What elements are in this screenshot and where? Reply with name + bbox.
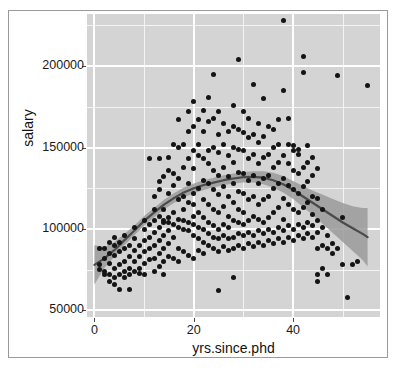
figure-root: 50000100000150000200000 02040 salary yrs… [0, 0, 396, 371]
data-point [276, 225, 281, 230]
data-point [166, 191, 171, 196]
data-point [251, 233, 256, 238]
data-point [281, 228, 286, 233]
data-point [201, 129, 206, 134]
data-point [226, 194, 231, 199]
data-point [301, 205, 306, 210]
data-point [281, 176, 286, 181]
data-point [281, 196, 286, 201]
data-point [266, 194, 271, 199]
data-point [201, 251, 206, 256]
data-point [142, 261, 147, 266]
data-point [181, 207, 186, 212]
data-point [301, 184, 306, 189]
data-point [276, 236, 281, 241]
data-point [216, 192, 221, 197]
data-point [266, 173, 271, 178]
data-point [355, 259, 360, 264]
data-point [166, 241, 171, 246]
data-point [315, 218, 320, 223]
data-point [171, 171, 176, 176]
data-point [340, 262, 345, 267]
data-point [201, 156, 206, 161]
data-point [296, 171, 301, 176]
data-point [241, 210, 246, 215]
data-point [161, 233, 166, 238]
data-point [196, 142, 201, 147]
data-point [176, 176, 181, 181]
data-point [221, 121, 226, 126]
data-point [281, 153, 286, 158]
data-point [256, 140, 261, 145]
data-point [191, 202, 196, 207]
data-point [166, 228, 171, 233]
data-point [216, 173, 221, 178]
data-point [246, 135, 251, 140]
data-point [142, 272, 147, 277]
data-point [281, 240, 286, 245]
data-point [157, 264, 162, 269]
x-axis-tick [94, 318, 95, 322]
data-point [171, 183, 176, 188]
data-point [152, 194, 157, 199]
data-point [216, 132, 221, 137]
data-point [122, 233, 127, 238]
data-point [161, 207, 166, 212]
scatter-points-layer [87, 14, 380, 317]
data-point [291, 207, 296, 212]
data-point [181, 165, 186, 170]
data-point [147, 235, 152, 240]
data-point [310, 155, 315, 160]
y-axis-title: salary [20, 78, 36, 178]
data-point [127, 266, 132, 271]
data-point [181, 194, 186, 199]
data-point [206, 161, 211, 166]
data-point [241, 246, 246, 251]
data-point [246, 156, 251, 161]
data-point [296, 147, 301, 152]
data-point [226, 225, 231, 230]
data-point [186, 228, 191, 233]
data-point [112, 243, 117, 248]
data-point [137, 266, 142, 271]
data-point [216, 210, 221, 215]
data-point [296, 210, 301, 215]
data-point [291, 168, 296, 173]
data-point [291, 238, 296, 243]
data-point [211, 72, 216, 77]
data-point [196, 210, 201, 215]
data-point [231, 200, 236, 205]
data-point [236, 57, 241, 62]
data-point [152, 230, 157, 235]
data-point [266, 215, 271, 220]
y-axis-tick-label: 100000 [14, 222, 84, 235]
data-point [256, 202, 261, 207]
data-point [157, 251, 162, 256]
data-point [310, 212, 315, 217]
data-point [117, 240, 122, 245]
data-point [291, 227, 296, 232]
data-point [152, 243, 157, 248]
data-point [132, 225, 137, 230]
data-point [251, 214, 256, 219]
data-point [310, 173, 315, 178]
data-point [276, 117, 281, 122]
data-point [320, 266, 325, 271]
data-point [335, 73, 340, 78]
data-point [261, 197, 266, 202]
x-axis-tick-label: 40 [273, 323, 313, 337]
data-point [142, 249, 147, 254]
data-point [152, 218, 157, 223]
data-point [365, 83, 370, 88]
data-point [271, 127, 276, 132]
data-point [325, 233, 330, 238]
data-point [350, 262, 355, 267]
data-point [152, 207, 157, 212]
data-point [251, 152, 256, 157]
data-point [226, 129, 231, 134]
data-point [107, 240, 112, 245]
data-point [157, 156, 162, 161]
data-point [132, 236, 137, 241]
data-point [261, 243, 266, 248]
data-point [137, 271, 142, 276]
